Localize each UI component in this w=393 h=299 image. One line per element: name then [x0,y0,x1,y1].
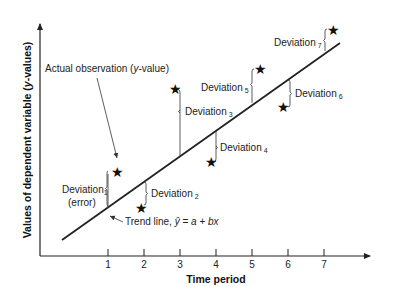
y-axis-title: Values of dependent variable (y-values) [21,42,33,239]
svg-text:4: 4 [213,259,219,270]
svg-text:2: 2 [141,259,147,270]
deviation-2-label: Deviation2 [151,188,199,200]
x-ticks [108,249,324,256]
trend-line-annotation: Trend line, ŷ = a + bx [110,216,220,227]
x-tick-labels: 1 2 3 4 5 6 7 [105,259,327,270]
x-axis-title: Time period [186,273,245,285]
deviation-7: ★ Deviation7 [274,22,340,51]
observation-star-7: ★ [327,22,340,38]
svg-text:5: 5 [249,259,255,270]
trend-line-label: Trend line, ŷ = a + bx [125,216,220,227]
svg-text:3: 3 [177,259,183,270]
deviation-4-label: Deviation4 [220,142,268,154]
observation-star-6: ★ [277,99,290,115]
deviation-1-label: Deviation1 [62,184,108,196]
deviation-6-label: Deviation6 [295,88,343,100]
actual-observation-label: Actual observation (y-value) [45,63,169,74]
deviation-6: ★ Deviation6 [277,80,343,115]
deviation-2: ★ Deviation2 [135,182,199,216]
svg-text:1: 1 [105,259,111,270]
observation-star-3: ★ [169,81,182,97]
observation-star-5: ★ [254,61,267,77]
deviation-7-label: Deviation7 [274,37,322,49]
svg-text:7: 7 [321,259,327,270]
deviation-3-label: Deviation3 [185,106,233,118]
deviation-5: ★ Deviation5 [201,61,267,103]
observation-star-2: ★ [135,200,148,216]
deviation-5-label: Deviation5 [201,82,249,94]
deviation-1: ★ Deviation1 (error) [62,164,124,208]
deviation-1-error-label: (error) [68,197,96,208]
deviation-4: ★ Deviation4 [205,131,268,170]
trend-line-diagram: 1 2 3 4 5 6 7 Time period Values of depe… [0,0,393,299]
observation-star-4: ★ [205,154,218,170]
observation-star-1: ★ [111,164,124,180]
svg-text:6: 6 [285,259,291,270]
actual-observation-annotation: Actual observation (y-value) [45,63,169,158]
